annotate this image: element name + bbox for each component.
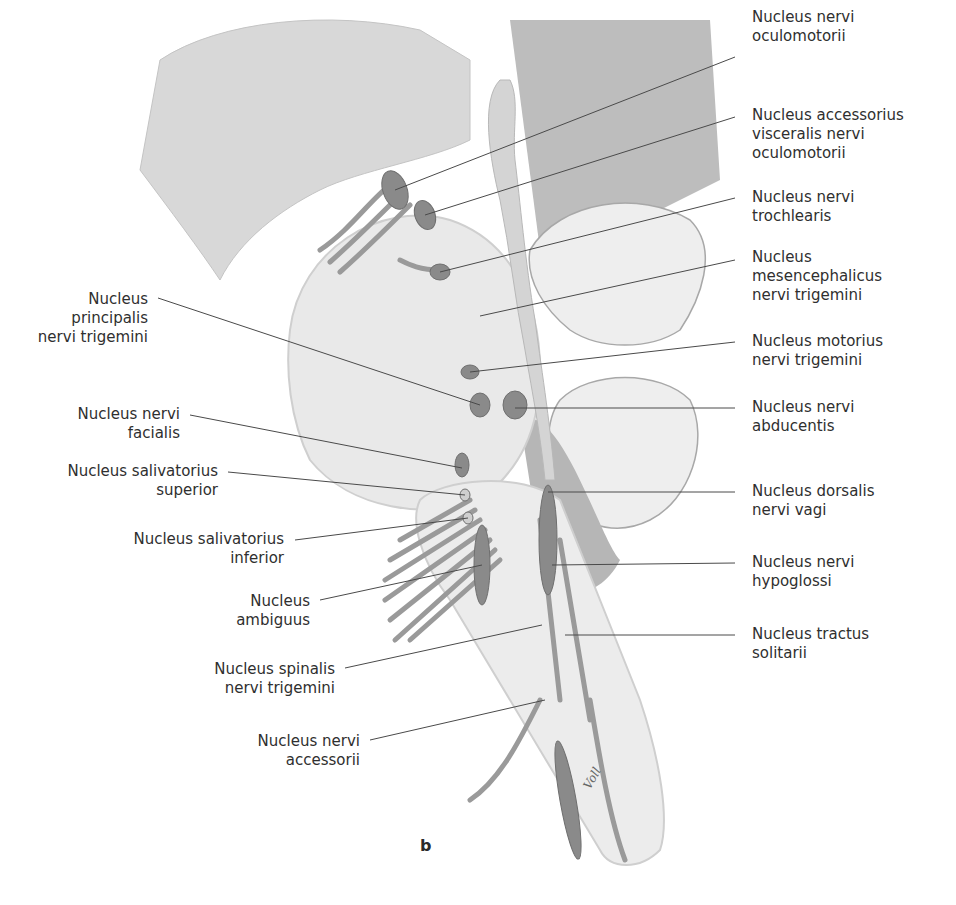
label-nucleus-mesencephalicus: Nucleus mesencephalicus nervi trigemini	[752, 248, 882, 305]
panel-letter: b	[420, 836, 431, 855]
label-nucleus-tractus-solitarii: Nucleus tractus solitarii	[752, 625, 869, 663]
label-nucleus-salivatorius-superior: Nucleus salivatorius superior	[67, 462, 218, 500]
label-nucleus-salivatorius-inferior: Nucleus salivatorius inferior	[133, 530, 284, 568]
label-nucleus-nervi-hypoglossi: Nucleus nervi hypoglossi	[752, 553, 854, 591]
facial-nucleus	[455, 453, 469, 477]
label-nucleus-motorius-trigemini: Nucleus motorius nervi trigemini	[752, 332, 883, 370]
pons	[288, 216, 540, 510]
label-nucleus-principalis-trigemini: Nucleus principalis nervi trigemini	[38, 290, 148, 347]
vagus-dorsal-nucleus	[539, 485, 557, 595]
label-nucleus-spinalis-trigemini: Nucleus spinalis nervi trigemini	[214, 660, 335, 698]
label-nucleus-ambiguus: Nucleus ambiguus	[236, 592, 310, 630]
label-nucleus-nervi-abducentis: Nucleus nervi abducentis	[752, 398, 854, 436]
label-nucleus-nervi-oculomotorii: Nucleus nervi oculomotorii	[752, 8, 854, 46]
abducens-nucleus	[503, 391, 527, 419]
label-nucleus-dorsalis-vagi: Nucleus dorsalis nervi vagi	[752, 482, 874, 520]
label-nucleus-nervi-accessorii: Nucleus nervi accessorii	[258, 732, 360, 770]
label-nucleus-nervi-facialis: Nucleus nervi facialis	[78, 405, 180, 443]
label-nucleus-accessorius-visceralis: Nucleus accessorius visceralis nervi ocu…	[752, 106, 904, 163]
label-nucleus-nervi-trochlearis: Nucleus nervi trochlearis	[752, 188, 854, 226]
cerebellum-upper	[529, 203, 705, 345]
